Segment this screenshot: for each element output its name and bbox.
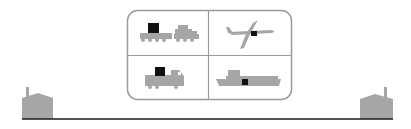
origin-factory-icon	[22, 87, 53, 119]
cargo-icon	[155, 67, 165, 76]
cargo-icon	[148, 23, 159, 33]
diagram-canvas	[0, 0, 411, 129]
cargo-icon	[242, 79, 248, 85]
destination-factory-icon	[360, 87, 393, 119]
cargo-icon	[251, 31, 257, 36]
transport-diagram	[0, 0, 411, 129]
